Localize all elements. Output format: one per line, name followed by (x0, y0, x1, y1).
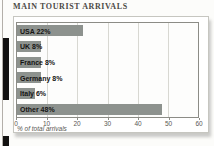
spine-black-bar (3, 38, 9, 100)
x-tick-label-60: 60 (195, 120, 202, 127)
chart-title: MAIN TOURIST ARRIVALS (13, 2, 128, 11)
bar-row-france: France 8% (17, 54, 198, 70)
x-tick-label-30: 30 (104, 120, 111, 127)
x-axis-label: % of total arrivals (17, 125, 67, 132)
spine-bottom-mark (3, 136, 9, 146)
bar-row-other: Other 48% (17, 101, 198, 117)
chart-panel: USA 22%UK 8%France 8%Germany 8%Italy 6%O… (13, 16, 209, 133)
bar-label-italy: Italy 6% (20, 90, 46, 97)
bar-row-italy: Italy 6% (17, 86, 198, 102)
bar-series: USA 22%UK 8%France 8%Germany 8%Italy 6%O… (17, 23, 198, 117)
bar-label-uk: UK 8% (20, 43, 42, 50)
bar-row-usa: USA 22% (17, 23, 198, 39)
bar-label-france: France 8% (20, 59, 55, 66)
bar-row-germany: Germany 8% (17, 70, 198, 86)
x-tick-label-40: 40 (134, 120, 141, 127)
plot-area: USA 22%UK 8%France 8%Germany 8%Italy 6%O… (16, 22, 199, 118)
x-tick-label-50: 50 (165, 120, 172, 127)
bar-label-germany: Germany 8% (20, 74, 62, 81)
x-tick-label-20: 20 (73, 120, 80, 127)
bar-label-usa: USA 22% (20, 27, 50, 34)
scanned-page: MAIN TOURIST ARRIVALS USA 22%UK 8%France… (0, 0, 214, 146)
bar-label-other: Other 48% (20, 106, 55, 113)
bar-row-uk: UK 8% (17, 39, 198, 55)
